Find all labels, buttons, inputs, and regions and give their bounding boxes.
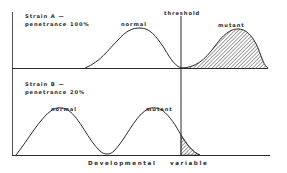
strain-b-distribution-curve xyxy=(16,108,200,155)
strain-b-mutant-label: mutant xyxy=(146,106,173,112)
strain-b-mutant-shaded-tail xyxy=(181,135,200,155)
strain-a-mutant-label: mutant xyxy=(218,22,245,28)
strain-b-penetrance: penetrance 20% xyxy=(25,89,85,96)
strain-b-normal-label: normal xyxy=(51,106,77,112)
x-axis-label-left: Developmental xyxy=(88,160,156,167)
strain-a-title: Strain A — xyxy=(25,13,65,19)
strain-a-normal-curve xyxy=(85,28,182,68)
x-axis-label-right: variable xyxy=(170,160,208,166)
penetrance-diagram: Strain A — penetrance 100% normal thresh… xyxy=(0,0,287,173)
threshold-label: threshold xyxy=(164,10,200,16)
strain-a-penetrance: penetrance 100% xyxy=(25,21,90,28)
strain-b-title: Strain B — xyxy=(25,81,65,87)
strain-a-normal-label: normal xyxy=(121,21,147,27)
